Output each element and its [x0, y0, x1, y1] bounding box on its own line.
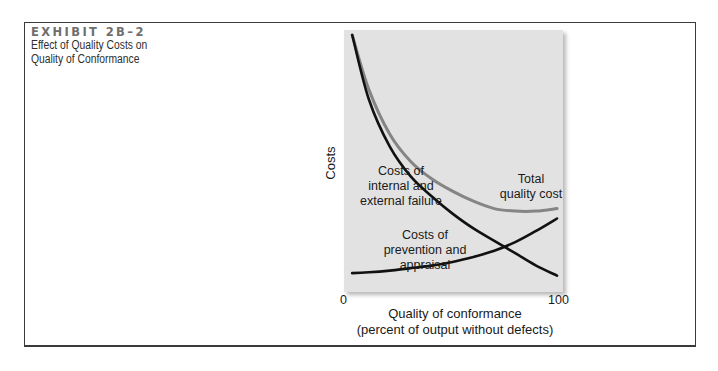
prevention-curve-label: Costs of prevention and appraisal — [380, 228, 470, 272]
x-tick-0: 0 — [340, 293, 347, 307]
total-curve-label: Total quality cost — [494, 172, 568, 202]
x-axis-label: Quality of conformance (percent of outpu… — [345, 306, 565, 338]
label-line: quality cost — [494, 187, 568, 202]
label-line: internal and — [358, 179, 444, 194]
x-tick-100: 100 — [548, 293, 569, 307]
label-line: Costs of — [380, 228, 470, 243]
label-line: Total — [494, 172, 568, 187]
failure-curve-label: Costs of internal and external failure — [358, 164, 444, 208]
x-axis-label-line-1: Quality of conformance — [345, 306, 565, 322]
label-line: external failure — [358, 194, 444, 209]
x-axis-label-line-2: (percent of output without defects) — [345, 322, 565, 338]
y-axis-label: Costs — [323, 142, 339, 184]
label-line: Costs of — [358, 164, 444, 179]
label-line: appraisal — [380, 258, 470, 273]
label-line: prevention and — [380, 243, 470, 258]
